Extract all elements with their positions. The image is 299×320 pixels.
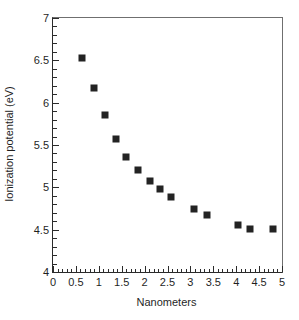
data-point-marker [134,166,141,173]
data-point-marker [157,186,164,193]
caption-sliver [0,314,299,320]
data-point-marker [204,212,211,219]
chart-figure: 44.555.566.57 00.511.522.533.544.55 Nano… [0,0,299,320]
x-axis-tick-label: 1 [96,277,102,288]
data-point-marker [113,136,120,143]
x-axis-tick-label: 4 [233,277,239,288]
x-axis-tick-label: 4.5 [251,277,266,288]
data-point-marker [167,194,174,201]
y-axis-major-tick [53,272,59,273]
x-axis-tick-label: 2 [142,277,148,288]
x-axis-tick-label: 5 [279,277,285,288]
data-point-marker [146,177,153,184]
x-axis-title: Nanometers [52,296,281,308]
data-point-marker [122,153,129,160]
y-axis-tick-label: 5.5 [34,140,49,151]
y-axis-tick-label: 4.5 [34,224,49,235]
data-point-marker [101,111,108,118]
y-axis-title: Ionization potential (eV) [0,17,18,271]
data-series-layer [53,18,282,272]
y-axis-tick-label: 6 [43,97,49,108]
data-point-marker [78,54,85,61]
data-point-marker [246,225,253,232]
plot-area: 44.555.566.57 00.511.522.533.544.55 [52,17,283,273]
x-axis-tick-label: 2.5 [160,277,175,288]
x-axis-tick-label: 3 [187,277,193,288]
x-axis-major-tick [282,266,283,272]
data-point-marker [235,222,242,229]
y-axis-tick-label: 7 [43,13,49,24]
y-axis-tick-label: 6.5 [34,55,49,66]
y-axis-title-text: Ionization potential (eV) [3,86,15,202]
x-axis-tick-label: 0 [50,277,56,288]
x-axis-tick-label: 3.5 [206,277,221,288]
data-point-marker [90,85,97,92]
y-axis-tick-label: 5 [43,182,49,193]
x-axis-tick-label: 1.5 [114,277,129,288]
data-point-marker [190,206,197,213]
y-axis-tick-label: 4 [43,267,49,278]
x-axis-tick-label: 0.5 [68,277,83,288]
data-point-marker [269,225,276,232]
